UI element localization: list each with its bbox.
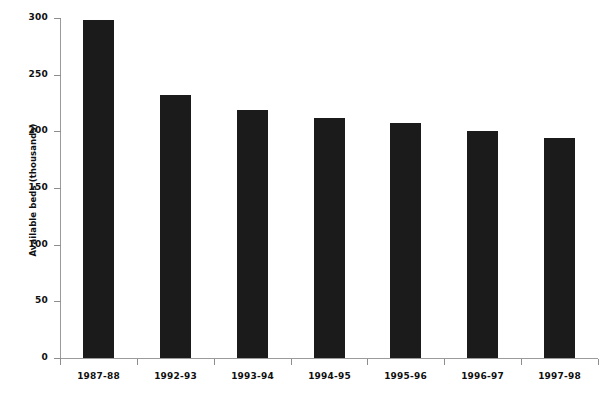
y-axis-tick-label: 0	[0, 352, 48, 362]
bar	[544, 138, 575, 358]
y-axis-tick	[54, 245, 61, 246]
y-axis-tick	[54, 188, 61, 189]
x-axis-category-label: 1994-95	[291, 371, 368, 381]
x-axis-category-label: 1996-97	[444, 371, 521, 381]
y-axis-tick-label: 250	[0, 69, 48, 79]
y-axis-tick	[54, 131, 61, 132]
x-axis-line	[60, 358, 598, 359]
x-axis-category-label: 1992-93	[137, 371, 214, 381]
x-axis-category-label: 1987-88	[60, 371, 137, 381]
bar	[83, 20, 114, 358]
x-axis-category-label: 1995-96	[367, 371, 444, 381]
bar	[314, 118, 345, 358]
bar	[467, 131, 498, 358]
x-axis-tick	[60, 359, 61, 365]
x-axis-tick	[598, 359, 599, 365]
x-axis-category-label: 1997-98	[521, 371, 598, 381]
bar-chart-figure: Available beds (thousands) 0501001502002…	[0, 0, 606, 398]
y-axis-tick	[54, 75, 61, 76]
y-axis-tick	[54, 301, 61, 302]
bar	[390, 123, 421, 358]
bar	[160, 95, 191, 358]
x-axis-tick	[214, 359, 215, 365]
bar	[237, 110, 268, 358]
y-axis-tick-label: 100	[0, 239, 48, 249]
cropped-caption-strip	[0, 391, 606, 398]
x-axis-tick	[444, 359, 445, 365]
x-axis-tick	[137, 359, 138, 365]
x-axis-category-label: 1993-94	[214, 371, 291, 381]
y-axis-tick-label: 200	[0, 125, 48, 135]
y-axis-tick-label: 150	[0, 182, 48, 192]
x-axis-tick	[521, 359, 522, 365]
x-axis-tick	[291, 359, 292, 365]
x-axis-tick	[367, 359, 368, 365]
y-axis-tick-label: 300	[0, 12, 48, 22]
y-axis-tick	[54, 18, 61, 19]
y-axis-tick-label: 50	[0, 295, 48, 305]
